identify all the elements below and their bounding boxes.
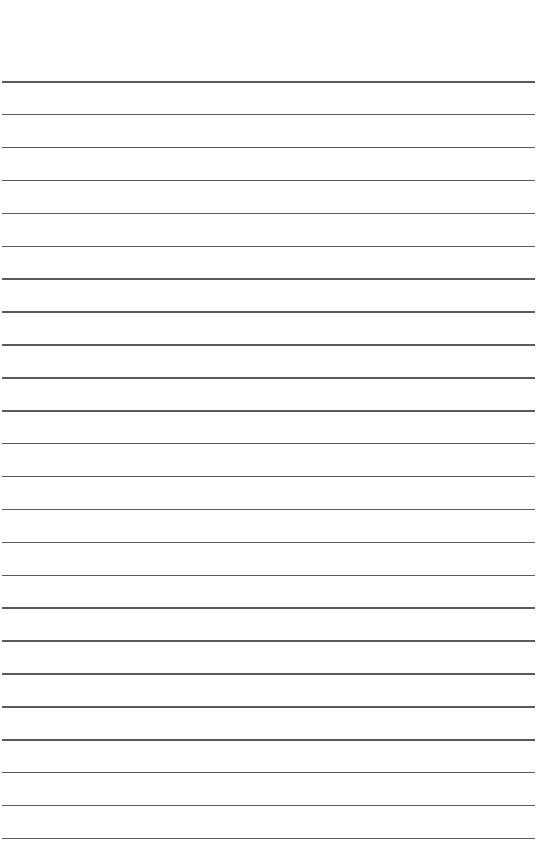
ruled-line bbox=[2, 114, 535, 116]
ruled-line bbox=[2, 476, 535, 478]
ruled-line bbox=[2, 278, 535, 280]
ruled-line bbox=[2, 410, 535, 412]
ruled-line bbox=[2, 640, 535, 642]
ruled-line bbox=[2, 180, 535, 182]
lined-paper-page bbox=[0, 0, 536, 863]
ruled-line bbox=[2, 706, 535, 708]
ruled-line bbox=[2, 344, 535, 346]
ruled-line bbox=[2, 81, 535, 83]
ruled-line bbox=[2, 246, 535, 248]
ruled-line bbox=[2, 805, 535, 807]
ruled-line bbox=[2, 739, 535, 741]
ruled-line bbox=[2, 542, 535, 544]
ruled-line bbox=[2, 838, 535, 840]
ruled-line bbox=[2, 377, 535, 379]
ruled-line bbox=[2, 509, 535, 511]
ruled-line bbox=[2, 575, 535, 577]
ruled-line bbox=[2, 443, 535, 445]
ruled-line bbox=[2, 213, 535, 215]
ruled-line bbox=[2, 772, 535, 774]
ruled-line bbox=[2, 607, 535, 609]
ruled-line bbox=[2, 673, 535, 675]
ruled-line bbox=[2, 147, 535, 149]
ruled-line bbox=[2, 311, 535, 313]
